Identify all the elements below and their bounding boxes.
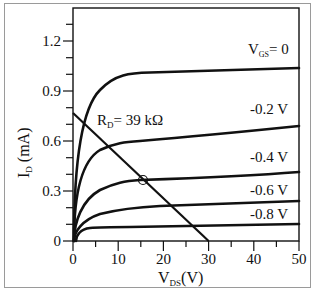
chart: 0 0.3 0.6 0.9 1.2 0 10 20 30 40 50 VDS(V… <box>0 0 317 294</box>
vgs-m0.6-label: -0.6 V <box>250 182 288 198</box>
y-axis-label: ID (mA) <box>15 128 34 178</box>
y-tick-label: 0 <box>54 233 62 249</box>
x-ticks <box>73 241 299 251</box>
y-tick-label: 0.3 <box>42 183 61 199</box>
curve-vgs-m0.8 <box>76 224 299 241</box>
x-tick-label: 30 <box>201 251 216 267</box>
x-tick-label: 10 <box>111 251 126 267</box>
y-ticks <box>63 24 73 241</box>
x-tick-label: 50 <box>292 251 307 267</box>
vgs-m0.8-label: -0.8 V <box>250 206 288 222</box>
y-tick-label: 0.6 <box>42 133 61 149</box>
y-tick-label: 1.2 <box>42 33 61 49</box>
x-tick-label: 0 <box>69 251 77 267</box>
y-tick-label: 0.9 <box>42 83 61 99</box>
vgs-m0.2-label: -0.2 V <box>250 101 288 117</box>
x-axis-label: VDS(V) <box>158 269 203 288</box>
x-tick-label: 20 <box>156 251 171 267</box>
vgs-m0.4-label: -0.4 V <box>250 149 288 165</box>
rd-annotation: RD= 39 kΩ <box>97 112 163 130</box>
vgs-0-label: VGS= 0 <box>248 41 289 59</box>
x-tick-label: 40 <box>246 251 261 267</box>
